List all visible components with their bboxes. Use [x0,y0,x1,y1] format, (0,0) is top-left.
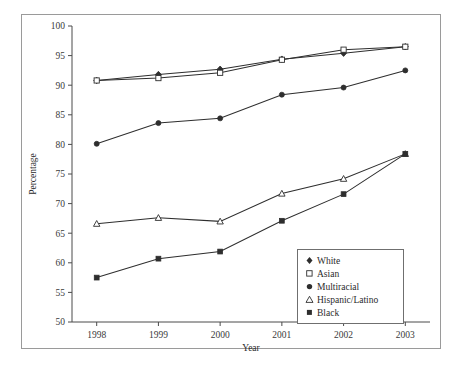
data-point [218,70,223,75]
series-asian [94,44,408,83]
data-point [156,121,161,126]
data-point [218,116,223,121]
y-tick-label: 70 [56,199,66,209]
y-tick-label: 50 [56,317,66,327]
filled-square-icon [303,308,316,317]
data-point [94,78,99,83]
x-tick-label: 2003 [396,330,415,340]
legend-item: Asian [298,267,403,280]
y-tick-label: 100 [51,21,66,31]
series-line [97,70,406,143]
x-tick-label: 1998 [87,330,106,340]
x-tick-label: 2002 [334,330,353,340]
data-point [341,47,346,52]
x-tick-label: 2000 [211,330,230,340]
y-tick-label: 85 [56,110,66,120]
data-point [279,92,284,97]
y-tick-label: 60 [56,258,66,268]
y-tick-label: 80 [56,140,66,150]
y-tick-label: 65 [56,229,66,239]
data-point [403,68,408,73]
legend-item: White [298,254,403,267]
series-white [94,44,409,84]
y-tick-label: 90 [56,81,66,91]
legend-label: Asian [316,269,339,279]
data-point [279,57,284,62]
filled-diamond-icon [303,256,316,265]
legend-item: Hispanic/Latino [298,293,403,306]
data-point [94,141,99,146]
data-point [403,44,408,49]
chart-legend: WhiteAsianMultiracialHispanic/LatinoBlac… [297,249,404,324]
legend-label: Hispanic/Latino [316,295,378,305]
data-point [218,249,223,254]
legend-item: Black [298,306,403,319]
filled-circle-icon [303,282,316,291]
legend-label: Black [316,308,339,318]
data-point [156,75,161,80]
series-line [97,47,406,81]
data-point [341,192,346,197]
data-point [340,176,346,182]
legend-label: White [316,256,340,266]
legend-item: Multiracial [298,280,403,293]
y-axis-title: Percentage [28,153,38,195]
series-hispanic-latino [93,151,408,227]
x-axis-title: Year [242,343,260,353]
open-square-icon [303,269,316,278]
data-point [156,256,161,261]
y-tick-label: 95 [56,51,66,61]
data-point [94,275,99,280]
y-tick-label: 55 [56,288,66,298]
data-point [279,218,284,223]
x-tick-label: 1999 [149,330,168,340]
data-point [403,151,408,156]
open-triangle-icon [303,295,316,304]
series-line [97,154,406,224]
data-point [341,85,346,90]
x-tick-label: 2001 [272,330,291,340]
series-multiracial [94,68,408,146]
legend-label: Multiracial [316,282,359,292]
y-tick-label: 75 [56,169,66,179]
